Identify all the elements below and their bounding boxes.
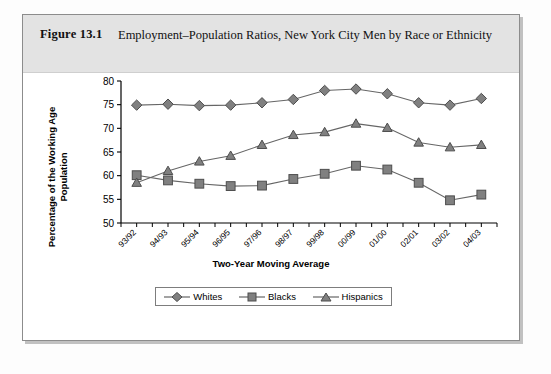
svg-text:97/96: 97/96 [242, 227, 264, 249]
svg-text:03/02: 03/02 [430, 227, 452, 249]
figure-number: Figure 13.1 [40, 27, 102, 42]
svg-text:01/00: 01/00 [367, 227, 389, 249]
svg-text:00/99: 00/99 [336, 227, 358, 249]
svg-text:95/94: 95/94 [179, 227, 201, 249]
svg-text:04/03: 04/03 [461, 227, 483, 249]
legend-label-whites: Whites [193, 291, 222, 302]
diamond-marker-icon [164, 291, 190, 303]
figure-title: Employment–Population Ratios, New York C… [118, 27, 501, 43]
chart-legend: Whites Blacks Hispanics [155, 287, 392, 306]
svg-text:80: 80 [103, 76, 115, 87]
svg-text:50: 50 [103, 218, 115, 229]
svg-text:65: 65 [103, 147, 115, 158]
svg-text:94/93: 94/93 [148, 227, 170, 249]
svg-text:02/01: 02/01 [398, 227, 420, 249]
figure-header-band [23, 15, 519, 73]
figure-screenshot: Figure 13.1 Employment–Population Ratios… [0, 0, 551, 374]
triangle-marker-icon [313, 291, 339, 303]
square-marker-icon [239, 291, 265, 303]
x-axis-label: Two-Year Moving Average [23, 258, 519, 269]
svg-text:60: 60 [103, 170, 115, 181]
legend-label-blacks: Blacks [268, 291, 296, 302]
svg-text:98/97: 98/97 [273, 227, 295, 249]
svg-text:96/95: 96/95 [210, 227, 232, 249]
line-chart: 5055606570758093/9294/9395/9496/9597/969… [23, 73, 521, 273]
svg-text:70: 70 [103, 123, 115, 134]
svg-text:75: 75 [103, 99, 115, 110]
plot-area: Percentage of the Working Age Population… [23, 73, 519, 341]
legend-item-whites[interactable]: Whites [164, 291, 222, 303]
figure-card: Figure 13.1 Employment–Population Ratios… [22, 14, 520, 341]
svg-text:93/92: 93/92 [116, 227, 138, 249]
legend-label-hispanics: Hispanics [342, 291, 383, 302]
svg-text:55: 55 [103, 194, 115, 205]
svg-text:99/98: 99/98 [304, 227, 326, 249]
legend-item-blacks[interactable]: Blacks [239, 291, 296, 303]
legend-item-hispanics[interactable]: Hispanics [313, 291, 383, 303]
